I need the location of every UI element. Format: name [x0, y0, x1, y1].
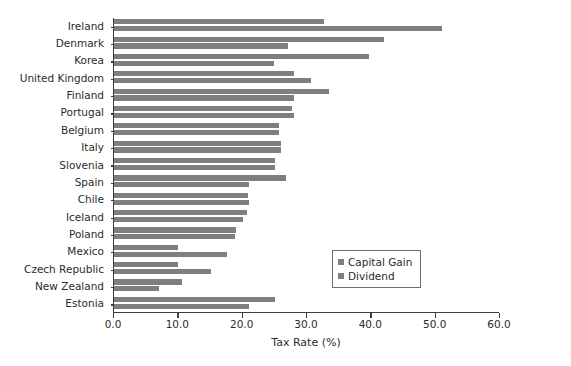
y-axis-tick [111, 131, 115, 132]
bar-group [114, 261, 499, 278]
y-axis-tick [111, 148, 115, 149]
bar [114, 43, 288, 48]
x-axis-tick-label: 50.0 [423, 318, 446, 330]
x-axis-title: Tax Rate (%) [113, 336, 499, 349]
y-axis-labels: IrelandDenmarkKoreaUnited KingdomFinland… [0, 18, 109, 313]
x-axis-tick [499, 313, 500, 318]
bar [114, 141, 281, 146]
y-axis-label: Slovenia [59, 160, 104, 171]
bar [114, 217, 243, 222]
x-axis-tick-label: 20.0 [230, 318, 253, 330]
bar [114, 175, 286, 180]
bar [114, 37, 384, 42]
x-axis-tick-label: 40.0 [359, 318, 382, 330]
y-axis-tick [111, 79, 115, 80]
y-axis-tick [111, 304, 115, 305]
bar [114, 106, 292, 111]
bar [114, 123, 279, 128]
bar [114, 269, 211, 274]
y-axis-label: Czech Republic [24, 264, 104, 275]
bar-group [114, 35, 499, 52]
y-axis-tick [111, 200, 115, 201]
bar-rows [114, 18, 499, 312]
bar-group [114, 87, 499, 104]
y-axis-label: Spain [75, 177, 104, 188]
bar [114, 210, 247, 215]
legend-swatch-icon [338, 273, 344, 279]
y-axis-label: United Kingdom [20, 73, 104, 84]
legend-swatch-icon [338, 259, 344, 265]
bar-group [114, 209, 499, 226]
bar [114, 61, 274, 66]
y-axis-label: Belgium [61, 125, 104, 136]
bar-group [114, 226, 499, 243]
bar [114, 26, 442, 31]
bar-group [114, 70, 499, 87]
x-axis-tick [113, 313, 114, 318]
bar [114, 165, 275, 170]
y-axis-tick [111, 61, 115, 62]
bar [114, 130, 279, 135]
bar [114, 279, 182, 284]
bar [114, 304, 249, 309]
bar [114, 89, 329, 94]
bar [114, 54, 369, 59]
y-axis-tick [111, 27, 115, 28]
y-axis-label: Chile [78, 194, 104, 205]
bar [114, 71, 294, 76]
legend-label: Capital Gain [348, 256, 412, 268]
bar [114, 286, 159, 291]
x-axis-tick [242, 313, 243, 318]
y-axis-tick [111, 252, 115, 253]
bar-group [114, 53, 499, 70]
x-axis-tick-label: 0.0 [105, 318, 122, 330]
bar [114, 200, 249, 205]
bar [114, 182, 249, 187]
bar [114, 147, 281, 152]
x-axis-tick [370, 313, 371, 318]
y-axis-label: Mexico [67, 246, 104, 257]
bar-group [114, 18, 499, 35]
x-axis-tick-label: 30.0 [294, 318, 317, 330]
y-axis-label: Ireland [68, 21, 104, 32]
y-axis-tick [111, 235, 115, 236]
y-axis-label: Denmark [56, 38, 104, 49]
x-axis-tick-labels: 0.010.020.030.040.050.060.0 [0, 318, 571, 334]
y-axis-label: Iceland [66, 212, 104, 223]
bar-group [114, 244, 499, 261]
bar [114, 78, 311, 83]
x-axis-tick [306, 313, 307, 318]
bar-group [114, 139, 499, 156]
bar [114, 113, 294, 118]
bar [114, 297, 275, 302]
bar-group [114, 157, 499, 174]
y-axis-tick [111, 183, 115, 184]
y-axis-label: Poland [69, 229, 104, 240]
y-axis-tick [111, 218, 115, 219]
bar [114, 158, 275, 163]
y-axis-tick [111, 44, 115, 45]
y-axis-tick [111, 270, 115, 271]
x-axis-tick [177, 313, 178, 318]
chart-figure: IrelandDenmarkKoreaUnited KingdomFinland… [0, 0, 571, 366]
legend-item-capital-gain: Capital Gain [338, 255, 412, 269]
bar-group [114, 192, 499, 209]
y-axis-label: New Zealand [35, 281, 104, 292]
y-axis-label: Korea [74, 55, 104, 66]
bar [114, 262, 178, 267]
y-axis-label: Portugal [61, 107, 105, 118]
bar [114, 95, 294, 100]
bar [114, 234, 235, 239]
x-axis-tick-label: 60.0 [487, 318, 510, 330]
legend-item-dividend: Dividend [338, 269, 412, 283]
x-axis-tick-label: 10.0 [166, 318, 189, 330]
legend-label: Dividend [348, 270, 395, 282]
y-axis-label: Estonia [65, 298, 104, 309]
bar-group [114, 296, 499, 313]
y-axis-tick [111, 165, 115, 166]
bar-group [114, 122, 499, 139]
bar-group [114, 105, 499, 122]
bar [114, 227, 236, 232]
chart-legend: Capital Gain Dividend [332, 250, 421, 288]
y-axis-tick [111, 287, 115, 288]
